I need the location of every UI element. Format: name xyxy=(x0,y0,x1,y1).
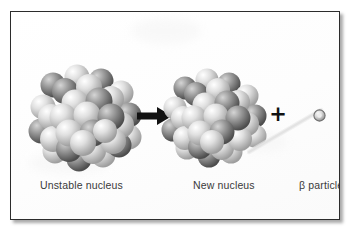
label-unstable-nucleus: Unstable nucleus xyxy=(40,179,123,191)
figure-stage: + xyxy=(0,0,352,236)
figure-frame: + xyxy=(10,11,340,220)
beta-particle-icon xyxy=(313,108,326,121)
paper-texture-blotch xyxy=(131,18,201,44)
unstable-nucleus-cluster xyxy=(25,55,147,177)
figure-canvas: + xyxy=(11,12,339,219)
label-beta-particle: β particle xyxy=(299,179,339,191)
plus-icon: + xyxy=(267,102,289,126)
label-new-nucleus: New nucleus xyxy=(193,179,255,191)
new-nucleus-cluster xyxy=(159,60,271,172)
